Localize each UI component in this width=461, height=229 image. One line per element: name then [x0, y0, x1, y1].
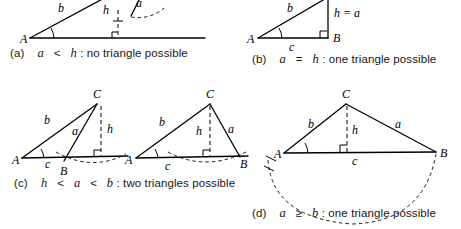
panel-a-angle-arc: [51, 28, 54, 38]
panel-a-caption: (a) a < h : no triangle possible: [10, 46, 188, 61]
panel-d-label-c: c: [352, 154, 358, 168]
panel-a-label-A: A: [19, 32, 28, 46]
panel-c2-label-A: A: [124, 153, 133, 167]
panel-a-right-angle: [112, 32, 118, 38]
panel-c1-label-h: h: [107, 122, 113, 136]
panel-c-triangle-1: A B C b a c h: [11, 87, 128, 178]
panel-c2-label-C: C: [206, 87, 215, 101]
panel-d-caption-right: b: [312, 206, 318, 220]
panel-b-label-A: A: [246, 32, 255, 46]
panel-d-label-B: B: [440, 146, 448, 160]
panel-b-caption-left: a: [280, 52, 286, 66]
panel-b-right-angle: [320, 31, 327, 38]
panel-c1-label-b: b: [44, 113, 50, 127]
panel-d-caption: (d) a ≥ b : one triangle possible: [252, 206, 436, 221]
figure-canvas: A b h a A B b c h = a: [0, 0, 461, 229]
panel-d-side-b: [284, 104, 346, 153]
panel-d-caption-tag: (d): [252, 207, 266, 219]
panel-c-caption-left: h: [41, 176, 47, 190]
panel-c2-label-c: c: [165, 159, 171, 173]
panel-c1-side-a: [64, 104, 97, 161]
panel-a-caption-right: h: [71, 46, 77, 60]
panel-c2-label-h: h: [196, 124, 202, 138]
panel-b-caption-tag: (b): [252, 53, 266, 65]
panel-c2-label-B: B: [240, 157, 248, 171]
panel-b-label-b: b: [287, 1, 293, 15]
panel-c1-side-b: [22, 104, 97, 158]
panel-d-label-A: A: [273, 147, 282, 161]
panel-c-caption-op2: <: [90, 177, 97, 189]
panel-d-caption-text: : one triangle possible: [322, 207, 436, 219]
panel-c2-label-a: a: [228, 122, 234, 136]
panel-a-caption-left: a: [38, 46, 44, 60]
panel-c2-label-b: b: [159, 115, 165, 129]
panel-b-diagram: A B b c h = a: [246, 0, 360, 54]
panel-c2-side-a: [210, 104, 240, 157]
panel-c-caption-mid: a: [74, 176, 80, 190]
panel-b-caption-right: h: [313, 52, 319, 66]
panel-c2-right-angle: [203, 150, 210, 157]
panel-a-caption-op: <: [54, 47, 61, 59]
panel-c-caption-right: b: [107, 176, 113, 190]
panel-c-caption-text: : two triangles possible: [117, 177, 236, 189]
panel-a-label-a: a: [136, 0, 142, 10]
panel-c1-baseline: [22, 156, 128, 158]
panel-b-side-b: [258, 0, 330, 38]
panel-b-caption: (b) a = h : one triangle possible: [252, 52, 436, 67]
panel-a-label-b: b: [58, 1, 64, 15]
panel-c1-angle-arc: [41, 149, 44, 158]
geometry-figure: A b h a A B b c h = a: [0, 0, 461, 229]
panel-a-side-b: [30, 0, 108, 38]
panel-c-caption-tag: (c): [14, 177, 28, 189]
panel-d-right-angle: [340, 145, 347, 152]
panel-d-label-b: b: [308, 117, 314, 131]
panel-d-baseline-c: [284, 152, 436, 153]
panel-a-caption-text: : no triangle possible: [80, 47, 188, 59]
panel-d-side-a: [346, 104, 436, 152]
panel-d-label-a: a: [395, 117, 401, 131]
panel-b-label-B: B: [333, 31, 341, 45]
panel-c-triangle-2: A B C b a c h: [124, 87, 248, 173]
panel-c1-label-C: C: [93, 87, 102, 101]
panel-b-angle-arc: [279, 28, 282, 38]
panel-d-caption-left: a: [280, 206, 286, 220]
panel-d-label-C: C: [342, 87, 351, 101]
panel-d-caption-op: ≥: [296, 207, 302, 219]
panel-c2-angle-arc: [155, 149, 158, 158]
panel-d-angle-arc: [305, 143, 308, 153]
panel-c1-label-c: c: [45, 157, 51, 171]
panel-c1-label-A: A: [11, 153, 20, 167]
panel-d-diagram: A B C b a c h: [264, 87, 448, 224]
panel-a-diagram: A b h a: [19, 0, 205, 46]
panel-a-caption-tag: (a): [10, 47, 24, 59]
panel-b-caption-op: =: [296, 53, 303, 65]
panel-b-label-h-eq-a: h = a: [334, 6, 360, 20]
panel-d-label-h: h: [352, 123, 358, 137]
panel-a-label-h: h: [103, 3, 109, 17]
panel-c1-label-a: a: [72, 124, 78, 138]
panel-b-caption-text: : one triangle possible: [322, 53, 436, 65]
panel-c-caption: (c) h < a < b : two triangles possible: [14, 176, 235, 191]
panel-c-caption-op: <: [57, 177, 64, 189]
